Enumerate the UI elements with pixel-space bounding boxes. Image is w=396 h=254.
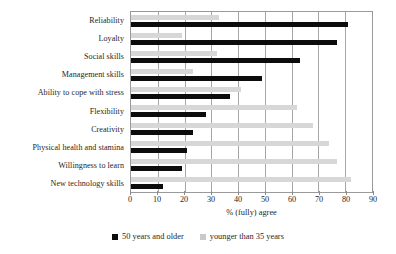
category-axis-labels: Reliability Loyalty Social skills Manage…: [0, 11, 127, 193]
bar-row: [131, 138, 372, 156]
legend-item-older: 50 years and older: [112, 232, 184, 241]
bar-row: [131, 66, 372, 84]
category-label: Social skills: [84, 52, 124, 61]
bar-50-and-older: [131, 112, 206, 117]
chart-legend: 50 years and older younger than 35 years: [0, 232, 396, 241]
category-label: Management skills: [62, 70, 124, 79]
plot-wrapper: Reliability Loyalty Social skills Manage…: [0, 0, 396, 254]
bar-row: [131, 156, 372, 174]
category-label: New technology skills: [51, 179, 124, 188]
bar-younger-than-35: [131, 123, 313, 128]
category-label: Physical health and stamina: [33, 143, 124, 152]
bar-rows: [131, 12, 372, 192]
bar-50-and-older: [131, 148, 187, 153]
bar-younger-than-35: [131, 141, 329, 146]
bar-row: [131, 174, 372, 192]
plot-area: [130, 11, 373, 193]
bar-50-and-older: [131, 184, 163, 189]
category-label: Ability to cope with stress: [38, 88, 124, 97]
legend-label: younger than 35 years: [210, 232, 284, 241]
bar-younger-than-35: [131, 69, 193, 74]
category-label: Flexibility: [90, 107, 124, 116]
category-label: Willingness to learn: [58, 161, 124, 170]
bar-row: [131, 30, 372, 48]
bar-50-and-older: [131, 58, 300, 63]
x-tick-label: 70: [315, 195, 323, 204]
x-tick-label: 10: [153, 195, 161, 204]
x-tick-label: 80: [342, 195, 350, 204]
bar-younger-than-35: [131, 177, 351, 182]
bar-50-and-older: [131, 94, 230, 99]
bar-50-and-older: [131, 40, 337, 45]
bar-younger-than-35: [131, 33, 182, 38]
bar-row: [131, 84, 372, 102]
x-axis-ticks: 0102030405060708090: [130, 195, 373, 207]
legend-swatch-icon: [112, 234, 118, 240]
bar-younger-than-35: [131, 105, 297, 110]
x-tick-label: 20: [180, 195, 188, 204]
x-tick-label: 0: [128, 195, 132, 204]
x-tick-label: 50: [261, 195, 269, 204]
bar-chart-figure: Reliability Loyalty Social skills Manage…: [0, 0, 396, 254]
bar-row: [131, 12, 372, 30]
legend-swatch-icon: [200, 234, 206, 240]
x-axis-title: % (fully) agree: [130, 208, 373, 217]
legend-item-younger: younger than 35 years: [200, 232, 284, 241]
bar-50-and-older: [131, 166, 182, 171]
bar-younger-than-35: [131, 51, 217, 56]
x-tick-label: 90: [369, 195, 377, 204]
bar-50-and-older: [131, 76, 262, 81]
bar-row: [131, 120, 372, 138]
category-label: Loyalty: [98, 34, 124, 43]
bar-50-and-older: [131, 130, 193, 135]
x-tick-label: 60: [288, 195, 296, 204]
bar-younger-than-35: [131, 159, 337, 164]
bar-younger-than-35: [131, 87, 241, 92]
bar-50-and-older: [131, 22, 348, 27]
bar-younger-than-35: [131, 15, 219, 20]
bar-row: [131, 48, 372, 66]
x-tick-label: 30: [207, 195, 215, 204]
category-label: Reliability: [89, 16, 124, 25]
category-label: Creativity: [91, 125, 124, 134]
legend-label: 50 years and older: [122, 232, 184, 241]
bar-row: [131, 102, 372, 120]
x-tick-label: 40: [234, 195, 242, 204]
